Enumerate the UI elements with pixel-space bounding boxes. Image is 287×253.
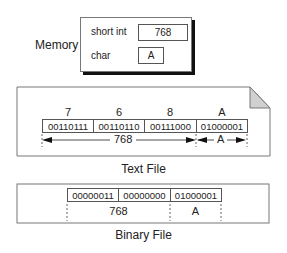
- text-file-caption: Text File: [0, 162, 287, 176]
- binary-byte-3: 01000001: [170, 188, 222, 202]
- binary-span-768: 768: [67, 205, 170, 217]
- text-char-3: 8: [145, 106, 195, 118]
- binary-span-A: A: [170, 205, 221, 217]
- text-byte-2: 00110110: [93, 119, 145, 133]
- text-byte-1: 00110111: [42, 119, 94, 133]
- binary-byte-1: 00000011: [67, 188, 119, 202]
- text-span-A: A: [214, 133, 227, 145]
- text-char-1: 7: [43, 106, 93, 118]
- text-span-768: 768: [110, 133, 136, 145]
- text-char-4: A: [197, 106, 247, 118]
- text-byte-4: 01000001: [196, 119, 248, 133]
- binary-file-caption: Binary File: [0, 228, 287, 242]
- text-char-2: 6: [94, 106, 144, 118]
- binary-byte-2: 00000000: [118, 188, 171, 202]
- text-byte-3: 00111000: [144, 119, 197, 133]
